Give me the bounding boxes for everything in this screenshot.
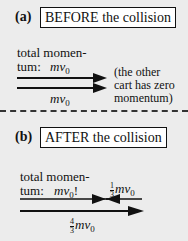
first-cart-arrow bbox=[20, 194, 108, 204]
fraction: 43 bbox=[70, 218, 74, 235]
panel-b-momentum-arrows bbox=[20, 194, 146, 218]
panel-b-total-line1: total momen- bbox=[20, 170, 90, 184]
panel-b-right-arrow-label: 43mv0 bbox=[70, 218, 95, 236]
rebound-arrow bbox=[20, 206, 144, 216]
panel-a-label: (a) bbox=[15, 9, 31, 25]
panel-a-total-line1: total momen- bbox=[17, 46, 87, 60]
panel-a-arrow-label: mv0 bbox=[50, 92, 70, 110]
panel-b-label: (b) bbox=[15, 129, 32, 145]
note-line: momentum) bbox=[114, 92, 175, 105]
second-cart-arrow bbox=[106, 194, 142, 204]
panel-a-total-line2: tum: bbox=[17, 60, 41, 74]
panel-a-note: (the other cart has zero momentum) bbox=[114, 66, 175, 105]
divider bbox=[0, 110, 188, 112]
panel-a-title: BEFORE the collision bbox=[40, 7, 176, 28]
cart-momentum-arrow bbox=[17, 73, 107, 83]
panel-b-title: AFTER the collision bbox=[40, 127, 167, 148]
